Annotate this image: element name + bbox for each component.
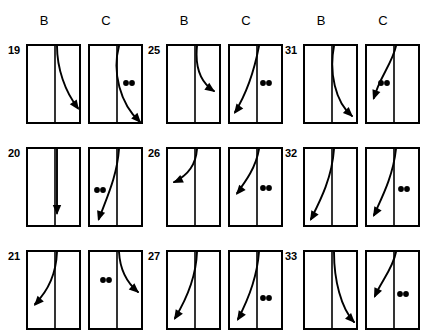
arrowhead-33-B <box>345 313 356 326</box>
motion-curve-19-B <box>57 46 78 108</box>
motion-curve-21-B <box>35 252 57 304</box>
arrowhead-20-B <box>53 205 61 215</box>
motion-curve-32-C <box>374 149 396 215</box>
column-header-b-4: B <box>311 14 331 28</box>
motion-curve-31-B <box>332 46 352 116</box>
motion-curve-31-C <box>374 46 396 98</box>
motion-curve-33-B <box>334 252 354 322</box>
dot-marker-27-C-0 <box>260 295 266 301</box>
row-label-31: 31 <box>285 44 297 56</box>
column-header-b-2: B <box>174 14 194 28</box>
panel-graphics-21-C <box>90 252 141 328</box>
row-label-20: 20 <box>8 147 20 159</box>
motion-curve-27-C <box>238 252 259 319</box>
panel-20-C <box>88 147 143 227</box>
dot-marker-25-C-1 <box>266 80 272 86</box>
arrowhead-20-C <box>94 210 105 222</box>
dot-marker-33-C-1 <box>403 291 409 297</box>
arrowhead-26-C <box>233 185 246 198</box>
panel-33-B <box>303 250 358 330</box>
arrowhead-27-C <box>233 310 245 323</box>
motion-curve-25-C <box>235 46 259 112</box>
panel-graphics-20-C <box>90 149 141 225</box>
dot-marker-19-C-1 <box>129 80 135 86</box>
panel-graphics-26-B <box>168 149 219 225</box>
panel-graphics-26-C <box>230 149 281 225</box>
arrowhead-27-B <box>170 309 182 322</box>
motion-curve-26-B <box>174 149 197 182</box>
panel-graphics-33-B <box>305 252 356 328</box>
column-header-b-0: B <box>34 14 54 28</box>
panel-graphics-19-B <box>28 46 79 122</box>
row-label-27: 27 <box>148 250 160 262</box>
row-label-32: 32 <box>285 147 297 159</box>
dot-marker-25-C-0 <box>260 80 266 86</box>
dot-marker-33-C-0 <box>397 291 403 297</box>
panel-25-C <box>228 44 283 124</box>
column-header-c-1: C <box>96 14 116 28</box>
panel-27-B <box>166 250 221 330</box>
panel-19-B <box>26 44 81 124</box>
panel-21-B <box>26 250 81 330</box>
panel-31-B <box>303 44 358 124</box>
arrowhead-21-B <box>31 296 44 309</box>
panel-32-B <box>303 147 358 227</box>
panel-graphics-27-C <box>230 252 281 328</box>
arrowhead-19-B <box>70 99 79 112</box>
motion-curve-25-B <box>197 46 214 91</box>
panel-26-B <box>166 147 221 227</box>
dot-marker-31-C-1 <box>384 80 390 86</box>
dot-marker-21-C-0 <box>100 277 106 283</box>
column-header-c-5: C <box>373 14 393 28</box>
dot-marker-20-C-1 <box>100 187 106 193</box>
panel-26-C <box>228 147 283 227</box>
panel-33-C <box>365 250 420 330</box>
row-label-19: 19 <box>8 44 20 56</box>
panel-graphics-31-B <box>305 46 356 122</box>
dot-marker-19-C-0 <box>123 80 129 86</box>
panel-graphics-31-C <box>367 46 418 122</box>
panel-19-C <box>88 44 143 124</box>
panel-32-C <box>365 147 420 227</box>
arrowhead-25-C <box>231 103 244 116</box>
panel-graphics-19-C <box>90 46 141 122</box>
arrowhead-33-C <box>370 287 382 300</box>
dot-marker-27-C-1 <box>266 295 272 301</box>
dot-marker-32-C-0 <box>398 186 404 192</box>
motion-curve-20-C <box>99 149 119 219</box>
row-label-26: 26 <box>148 147 160 159</box>
row-label-25: 25 <box>148 44 160 56</box>
panel-graphics-20-B <box>28 149 79 225</box>
dot-marker-32-C-1 <box>404 186 410 192</box>
panel-graphics-33-C <box>367 252 418 328</box>
panel-27-C <box>228 250 283 330</box>
dot-marker-26-C-0 <box>260 185 266 191</box>
panel-graphics-32-C <box>367 149 418 225</box>
row-label-33: 33 <box>285 250 297 262</box>
motion-curve-32-B <box>311 149 334 219</box>
dot-marker-26-C-1 <box>266 185 272 191</box>
dot-marker-21-C-1 <box>106 277 112 283</box>
panel-31-C <box>365 44 420 124</box>
panel-graphics-25-C <box>230 46 281 122</box>
row-label-21: 21 <box>8 250 20 262</box>
arrowhead-32-B <box>306 210 318 223</box>
arrowhead-31-C <box>369 89 380 101</box>
motion-curve-27-B <box>175 252 197 318</box>
dot-marker-31-C-0 <box>378 80 384 86</box>
figure-container: BCBCBC192021252627313233 <box>0 0 425 336</box>
panel-graphics-27-B <box>168 252 219 328</box>
panel-graphics-25-B <box>168 46 219 122</box>
panel-25-B <box>166 44 221 124</box>
panel-21-C <box>88 250 143 330</box>
arrowhead-32-C <box>369 206 381 219</box>
panel-20-B <box>26 147 81 227</box>
column-header-c-3: C <box>236 14 256 28</box>
panel-graphics-21-B <box>28 252 79 328</box>
dot-marker-20-C-0 <box>94 187 100 193</box>
panel-graphics-32-B <box>305 149 356 225</box>
